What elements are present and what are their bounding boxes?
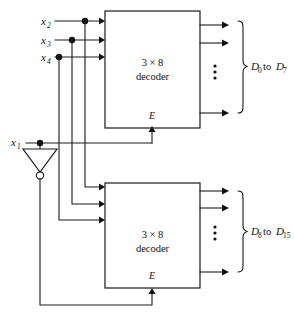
not-gate-icon — [23, 149, 57, 172]
bottom-outputs-ellipsis-icon — [213, 225, 216, 240]
top-outputs-last-sub: 7 — [283, 66, 287, 75]
arrow-top-output-8 — [222, 110, 229, 117]
decoder-circuit-diagram: 3 × 8 decoder E 3 × 8 decoder E x 2 x 3 … — [0, 0, 294, 315]
bottom-decoder-line1: 3 × 8 — [142, 229, 164, 240]
arrow-bottom-decoder-in2 — [99, 201, 105, 208]
input-label-x4: x 4 — [40, 51, 51, 66]
input-label-x2-sub: 2 — [47, 21, 51, 30]
bottom-outputs-label: D 8 to D 15 — [250, 225, 291, 240]
wire-x4-branch-to-bottom — [59, 57, 99, 220]
top-outputs-first-sub: 0 — [258, 66, 262, 75]
arrow-bottom-output-2 — [222, 205, 229, 212]
arrow-bottom-decoder-in1 — [99, 184, 105, 191]
input-label-x1-base: x — [10, 136, 16, 148]
input-label-x2-base: x — [40, 15, 46, 27]
wire-x2-branch-to-bottom — [85, 21, 99, 187]
top-decoder-enable-label: E — [148, 110, 155, 121]
bottom-decoder-enable-label: E — [148, 270, 155, 281]
top-outputs-label: D 0 to D 7 — [250, 60, 287, 75]
top-outputs-brace-icon — [238, 21, 247, 113]
circuit-svg: 3 × 8 decoder E 3 × 8 decoder E x 2 x 3 … — [0, 0, 294, 315]
top-outputs-ellipsis-icon — [213, 64, 216, 79]
input-label-x1: x 1 — [10, 136, 21, 151]
arrow-bottom-output-8 — [222, 269, 229, 276]
arrow-top-output-1 — [222, 22, 229, 29]
arrow-top-decoder-in1 — [99, 18, 105, 25]
top-decoder-line2: decoder — [136, 71, 170, 82]
input-label-x3-sub: 3 — [46, 40, 51, 49]
arrow-top-output-2 — [222, 40, 229, 47]
arrow-top-decoder-in2 — [99, 37, 105, 44]
not-gate-bubble-icon — [36, 172, 43, 179]
input-label-x3-base: x — [40, 34, 46, 46]
top-decoder-line1: 3 × 8 — [142, 57, 164, 68]
arrow-bottom-output-1 — [222, 188, 229, 195]
bottom-outputs-connector: to — [263, 226, 271, 237]
arrow-bottom-decoder-enable — [149, 288, 156, 294]
bottom-outputs-last-sub: 15 — [283, 231, 291, 240]
input-label-x2: x 2 — [40, 15, 51, 30]
top-outputs-connector: to — [263, 61, 271, 72]
input-label-x1-sub: 1 — [17, 142, 21, 151]
input-label-x4-base: x — [40, 51, 46, 63]
arrow-bottom-decoder-in3 — [99, 217, 105, 224]
arrow-top-decoder-in3 — [99, 54, 105, 61]
bottom-decoder-line2: decoder — [136, 243, 170, 254]
input-label-x3: x 3 — [40, 34, 51, 49]
bottom-outputs-brace-icon — [238, 191, 247, 272]
input-label-x4-sub: 4 — [47, 57, 51, 66]
bottom-outputs-first-sub: 8 — [258, 231, 262, 240]
